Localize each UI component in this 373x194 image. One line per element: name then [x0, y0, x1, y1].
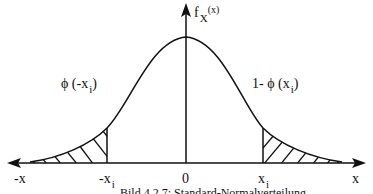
y-label-sup: (x)	[208, 4, 220, 15]
x-axis-label-left: -x	[14, 172, 26, 186]
left-tail-hatching	[30, 122, 110, 165]
right-area-sub: i	[291, 83, 294, 95]
tick-pos-xi-main: x	[258, 171, 265, 186]
normal-distribution-diagram	[0, 0, 373, 194]
tick-neg-xi: -xi	[99, 172, 115, 186]
tick-neg-xi-sub: i	[112, 178, 115, 190]
x-axis-label-right: x	[352, 172, 359, 186]
right-area-prefix: 1- ϕ (x	[252, 76, 290, 91]
left-area-prefix: ϕ (-x	[61, 76, 88, 91]
right-area-suffix: )	[294, 76, 299, 91]
tick-zero: 0	[182, 172, 189, 186]
tick-neg-xi-main: -x	[99, 171, 111, 186]
right-tail-hatching	[263, 128, 350, 165]
figure-caption: Bild 4.2.7: Standard-Normalverteilung	[120, 186, 306, 194]
y-label-sub: X	[200, 12, 208, 24]
y-label-main: f	[194, 5, 199, 20]
left-area-suffix: )	[92, 76, 97, 91]
left-area-label: ϕ (-xi)	[61, 77, 97, 91]
left-area-sub: i	[89, 83, 92, 95]
right-area-label: 1- ϕ (xi)	[252, 77, 298, 91]
tick-pos-xi: xi	[258, 172, 269, 186]
y-axis-label: fX(x)	[194, 6, 219, 20]
